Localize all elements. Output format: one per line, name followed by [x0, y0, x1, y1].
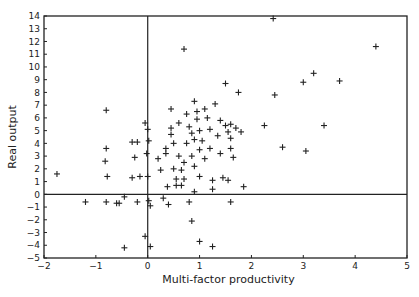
plus-marker [197, 147, 203, 153]
plus-marker [145, 173, 151, 179]
y-tick-label: 3 [34, 151, 40, 161]
plus-marker [217, 151, 223, 157]
y-tick-label: −3 [27, 228, 40, 238]
y-tick-label: 0 [34, 190, 40, 200]
plus-marker [186, 124, 192, 130]
plus-marker [228, 145, 234, 151]
x-tick-label: 0 [145, 261, 151, 271]
plus-marker [163, 151, 169, 157]
plus-marker [197, 128, 203, 134]
plus-marker [228, 121, 234, 127]
y-tick-label: 9 [34, 75, 40, 85]
plus-marker [178, 182, 184, 188]
plus-marker [235, 89, 241, 95]
plus-marker [103, 199, 109, 205]
x-tick-label: 4 [352, 261, 358, 271]
x-axis-label: Multi-factor productivity [162, 273, 295, 286]
plus-marker [82, 199, 88, 205]
y-tick-label: 4 [34, 139, 40, 149]
plus-marker [168, 131, 174, 137]
plus-marker [373, 44, 379, 50]
plus-marker [129, 139, 135, 145]
plus-marker [210, 177, 216, 183]
plus-marker [228, 135, 234, 141]
plus-marker [102, 158, 108, 164]
plus-marker [186, 199, 192, 205]
scatter-chart: −2−1012345 −5−4−3−2−10123456789101112131… [0, 0, 419, 297]
plus-marker [189, 218, 195, 224]
plus-marker [212, 101, 218, 107]
plus-marker [217, 117, 223, 123]
plus-marker [199, 138, 205, 144]
plus-marker [321, 123, 327, 129]
plus-marker [238, 129, 244, 135]
plus-marker [215, 133, 221, 139]
plus-marker [220, 175, 226, 181]
plus-marker [223, 123, 229, 129]
y-tick-label: −5 [27, 253, 40, 263]
plus-marker [225, 177, 231, 183]
plus-marker [173, 176, 179, 182]
plus-marker [145, 126, 151, 132]
plus-marker [223, 81, 229, 87]
plus-marker [155, 156, 161, 162]
plus-marker [189, 130, 195, 136]
plus-marker [54, 171, 60, 177]
plus-marker [181, 46, 187, 52]
plus-marker [225, 129, 231, 135]
x-tick-label: 3 [300, 261, 306, 271]
plus-marker [146, 138, 152, 144]
plus-marker [171, 140, 177, 146]
y-tick-label: 7 [34, 100, 40, 110]
plus-marker [178, 167, 184, 173]
y-tick-label: −1 [27, 202, 40, 212]
plus-marker [171, 166, 177, 172]
plus-marker [210, 244, 216, 250]
y-tick-label: 10 [29, 62, 41, 72]
plus-marker [300, 79, 306, 85]
plus-marker [103, 145, 109, 151]
plot-frame [44, 16, 407, 258]
y-tick-label: 2 [34, 164, 40, 174]
plus-marker [197, 238, 203, 244]
y-tick-label: 13 [29, 24, 40, 34]
plus-marker [233, 125, 239, 131]
y-tick-label: 5 [34, 126, 40, 136]
plus-marker [202, 106, 208, 112]
plus-marker [191, 137, 197, 143]
plus-marker [168, 125, 174, 131]
plus-marker [164, 184, 170, 190]
plus-marker [207, 126, 213, 132]
y-tick-label: 14 [29, 11, 41, 21]
plus-marker [194, 109, 200, 115]
plus-marker [261, 123, 267, 129]
data-points [54, 16, 379, 251]
plus-marker [104, 173, 110, 179]
plus-marker [272, 92, 278, 98]
plus-marker [158, 167, 164, 173]
plus-marker [197, 173, 203, 179]
plus-marker [210, 186, 216, 192]
plus-marker [176, 153, 182, 159]
y-tick-label: 12 [29, 37, 40, 47]
plus-marker [194, 116, 200, 122]
plus-marker [173, 182, 179, 188]
plus-marker [184, 140, 190, 146]
plus-marker [176, 120, 182, 126]
plus-marker [137, 173, 143, 179]
plus-marker [207, 145, 213, 151]
y-tick-label: 11 [29, 49, 40, 59]
plus-marker [311, 70, 317, 76]
plot-area-border [44, 16, 407, 258]
plus-marker [241, 184, 247, 190]
plus-marker [165, 202, 171, 208]
plus-marker [160, 195, 166, 201]
plus-marker [103, 107, 109, 113]
plus-marker [228, 199, 234, 205]
plus-marker [204, 115, 210, 121]
plus-marker [168, 106, 174, 112]
y-tick-label: −4 [27, 240, 41, 250]
y-tick-label: 8 [34, 88, 40, 98]
plus-marker [181, 159, 187, 165]
x-tick-label: 2 [249, 261, 255, 271]
